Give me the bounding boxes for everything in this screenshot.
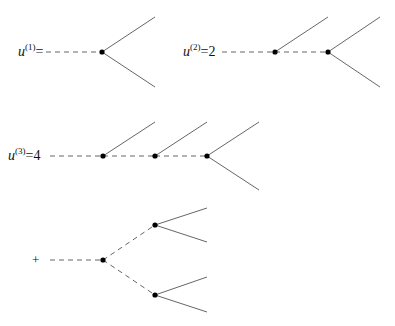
vertices-layer	[99, 49, 330, 297]
label-plus: +	[32, 252, 39, 267]
solid-leg-u1	[102, 17, 155, 52]
vertex-dot-u2	[272, 49, 277, 54]
solid-leg-u3	[207, 156, 259, 190]
svg-text:u(2)=2: u(2)=2	[183, 42, 215, 59]
vertex-dot-u3	[152, 153, 157, 158]
solid-leg-plus-term	[155, 225, 207, 242]
vertex-dot-u2	[325, 49, 330, 54]
svg-text:u(3)=4: u(3)=4	[8, 146, 40, 163]
solid-leg-u2	[275, 17, 328, 52]
vertex-dot-plus-term	[100, 257, 105, 262]
dashed-propagator-plus-term	[103, 260, 155, 295]
solid-leg-plus-term	[155, 295, 207, 312]
solid-leg-plus-term	[155, 208, 207, 225]
label-u3: u(3)=4	[8, 146, 40, 163]
vertex-dot-u3	[100, 153, 105, 158]
vertex-dot-u3	[204, 153, 209, 158]
dashed-propagator-plus-term	[103, 225, 155, 260]
solid-leg-plus-term	[155, 277, 207, 295]
solid-leg-u3	[155, 122, 207, 156]
solid-leg-u2	[328, 52, 380, 87]
vertex-dot-plus-term	[152, 292, 157, 297]
solid-leg-u1	[102, 52, 155, 87]
solid-leg-u2	[328, 17, 380, 52]
svg-text:u(1)=: u(1)=	[18, 42, 44, 59]
vertex-dot-plus-term	[152, 222, 157, 227]
edges-layer	[46, 17, 380, 312]
svg-text:+: +	[32, 252, 39, 267]
vertex-dot-u1	[99, 49, 104, 54]
solid-leg-u3	[103, 122, 155, 156]
solid-leg-u3	[207, 122, 259, 156]
label-u1: u(1)=	[18, 42, 44, 59]
label-u2: u(2)=2	[183, 42, 215, 59]
tree-diagram-canvas: u(1)= u(2)=2 u(3)=4 +	[0, 0, 395, 326]
